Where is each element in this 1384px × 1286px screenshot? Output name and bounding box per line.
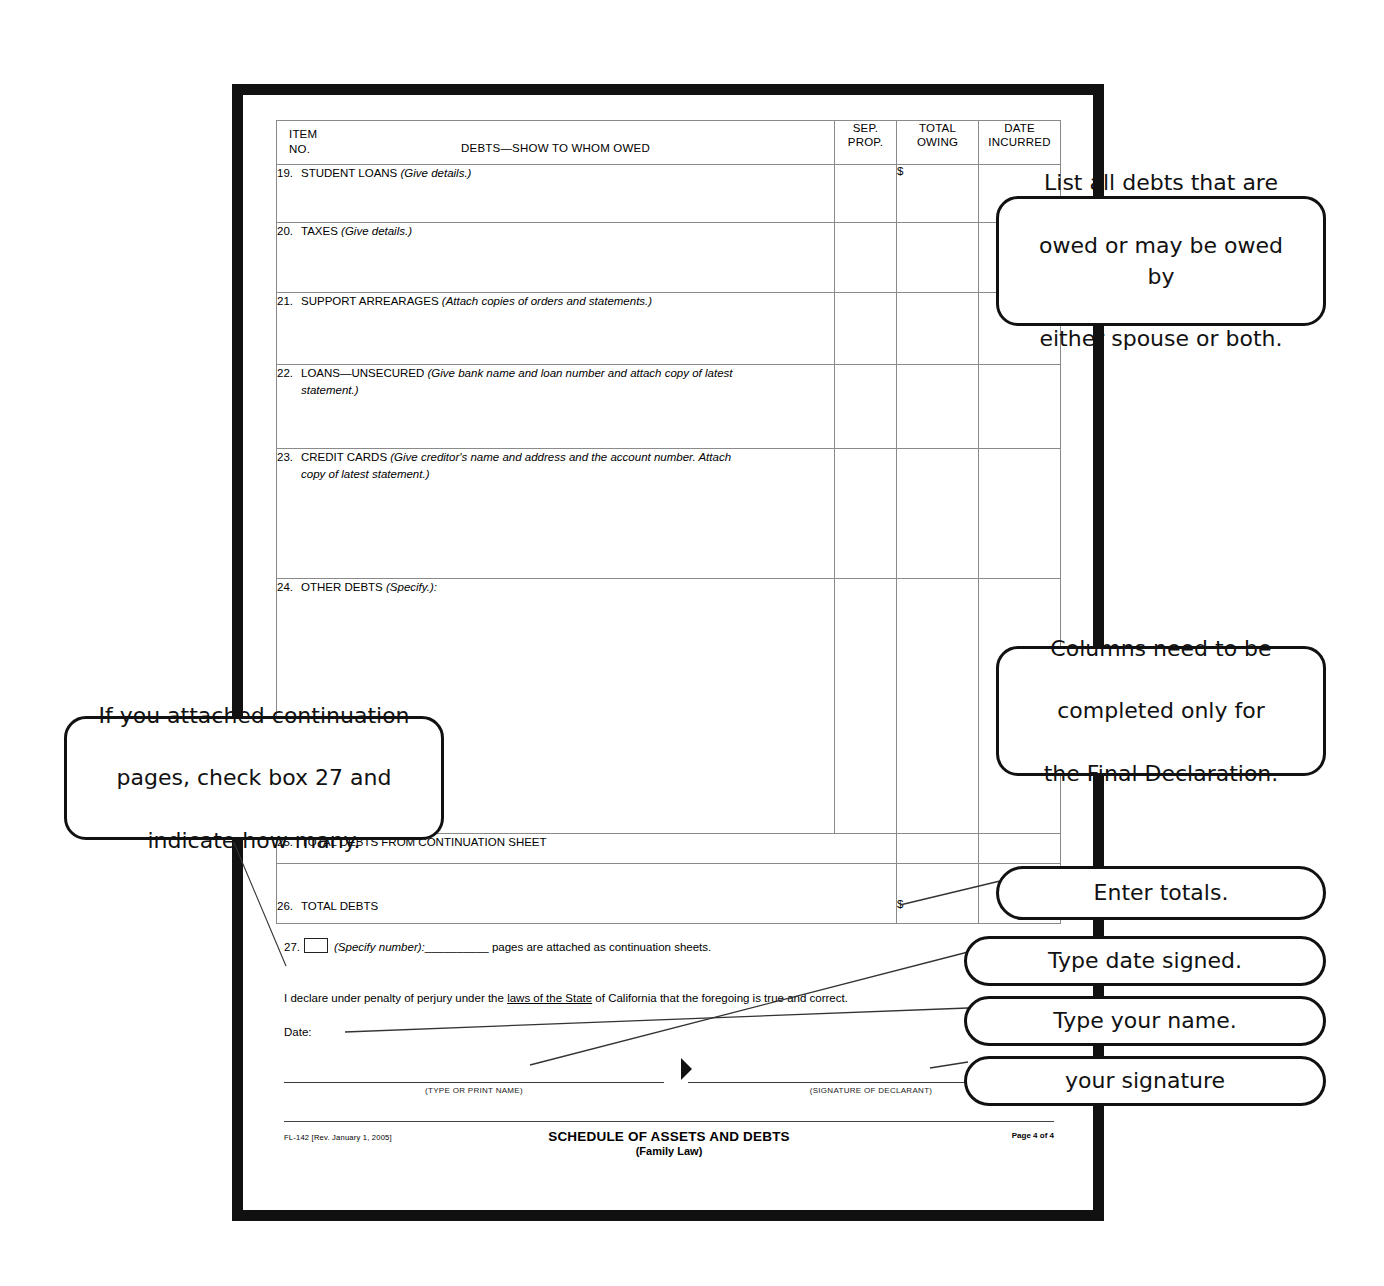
footer-divider bbox=[284, 1121, 1054, 1122]
row-21-sep-prop[interactable] bbox=[835, 293, 897, 365]
date-field-row: Date: bbox=[284, 1024, 312, 1041]
footer-title: SCHEDULE OF ASSETS AND DEBTS bbox=[284, 1129, 1054, 1144]
row-22-description: 22.LOANS—UNSECURED (Give bank name and l… bbox=[277, 365, 835, 449]
table-row: 23.CREDIT CARDS (Give creditor's name an… bbox=[277, 449, 1061, 579]
row-19-description: 19.STUDENT LOANS (Give details.) bbox=[277, 165, 835, 223]
perjury-statement: I declare under penalty of perjury under… bbox=[284, 990, 848, 1007]
item-27-checkbox[interactable] bbox=[304, 938, 328, 953]
header-total-owing: TOTAL OWING bbox=[897, 121, 979, 165]
typed-name-caption: (TYPE OR PRINT NAME) bbox=[284, 1086, 664, 1095]
callout-your-signature: your signature bbox=[964, 1056, 1326, 1106]
callout-enter-totals: Enter totals. bbox=[996, 866, 1326, 920]
table-row: 21.SUPPORT ARREARAGES (Attach copies of … bbox=[277, 293, 1061, 365]
callout-continuation-pages: If you attached continuation pages, chec… bbox=[64, 716, 444, 840]
row-19-sep-prop[interactable] bbox=[835, 165, 897, 223]
item-27-continuation-sheets: 27.(Specify number):__________ pages are… bbox=[284, 938, 711, 956]
callout-type-your-name: Type your name. bbox=[964, 996, 1326, 1046]
row-26-total-owing[interactable]: $ bbox=[897, 864, 979, 924]
date-label: Date: bbox=[284, 1026, 312, 1038]
footer-subtitle: (Family Law) bbox=[284, 1145, 1054, 1157]
row-22-total-owing[interactable] bbox=[897, 365, 979, 449]
callout-type-date-signed: Type date signed. bbox=[964, 936, 1326, 986]
row-22-date-incurred[interactable] bbox=[979, 365, 1061, 449]
row-24-total-owing[interactable] bbox=[897, 579, 979, 834]
row-22-sep-prop[interactable] bbox=[835, 365, 897, 449]
header-item-and-description: ITEM NO. DEBTS—SHOW TO WHOM OWED bbox=[277, 121, 835, 165]
table-row-total: 26.TOTAL DEBTS $ bbox=[277, 864, 1061, 924]
header-date-incurred: DATE INCURRED bbox=[979, 121, 1061, 165]
row-21-description: 21.SUPPORT ARREARAGES (Attach copies of … bbox=[277, 293, 835, 365]
row-19-total-owing[interactable]: $ bbox=[897, 165, 979, 223]
callout-list-all-debts: List all debts that are owed or may be o… bbox=[996, 196, 1326, 326]
signature-pointer-icon bbox=[681, 1058, 692, 1080]
row-20-total-owing[interactable] bbox=[897, 223, 979, 293]
header-sep-prop: SEP. PROP. bbox=[835, 121, 897, 165]
row-20-sep-prop[interactable] bbox=[835, 223, 897, 293]
typed-name-rule[interactable] bbox=[284, 1082, 664, 1083]
table-row: 20.TAXES (Give details.) bbox=[277, 223, 1061, 293]
row-21-total-owing[interactable] bbox=[897, 293, 979, 365]
row-23-description: 23.CREDIT CARDS (Give creditor's name an… bbox=[277, 449, 835, 579]
table-row: 22.LOANS—UNSECURED (Give bank name and l… bbox=[277, 365, 1061, 449]
row-23-total-owing[interactable] bbox=[897, 449, 979, 579]
table-row: 19.STUDENT LOANS (Give details.) $ bbox=[277, 165, 1061, 223]
callout-columns-final-declaration: Columns need to be completed only for th… bbox=[996, 646, 1326, 776]
row-23-sep-prop[interactable] bbox=[835, 449, 897, 579]
row-25-date-incurred[interactable] bbox=[979, 834, 1061, 864]
row-20-description: 20.TAXES (Give details.) bbox=[277, 223, 835, 293]
screenshot-canvas: ITEM NO. DEBTS—SHOW TO WHOM OWED SEP. PR… bbox=[0, 0, 1384, 1286]
item-27-number-field[interactable]: __________ bbox=[425, 941, 489, 953]
row-24-sep-prop[interactable] bbox=[835, 579, 897, 834]
row-26-description: 26.TOTAL DEBTS bbox=[277, 864, 897, 924]
row-25-total-owing[interactable] bbox=[897, 834, 979, 864]
row-23-date-incurred[interactable] bbox=[979, 449, 1061, 579]
header-description: DEBTS—SHOW TO WHOM OWED bbox=[277, 141, 834, 155]
page-footer: FL-142 [Rev. January 1, 2005] SCHEDULE O… bbox=[284, 1126, 1054, 1166]
page-number: Page 4 of 4 bbox=[1012, 1131, 1054, 1140]
table-header-row: ITEM NO. DEBTS—SHOW TO WHOM OWED SEP. PR… bbox=[277, 121, 1061, 165]
